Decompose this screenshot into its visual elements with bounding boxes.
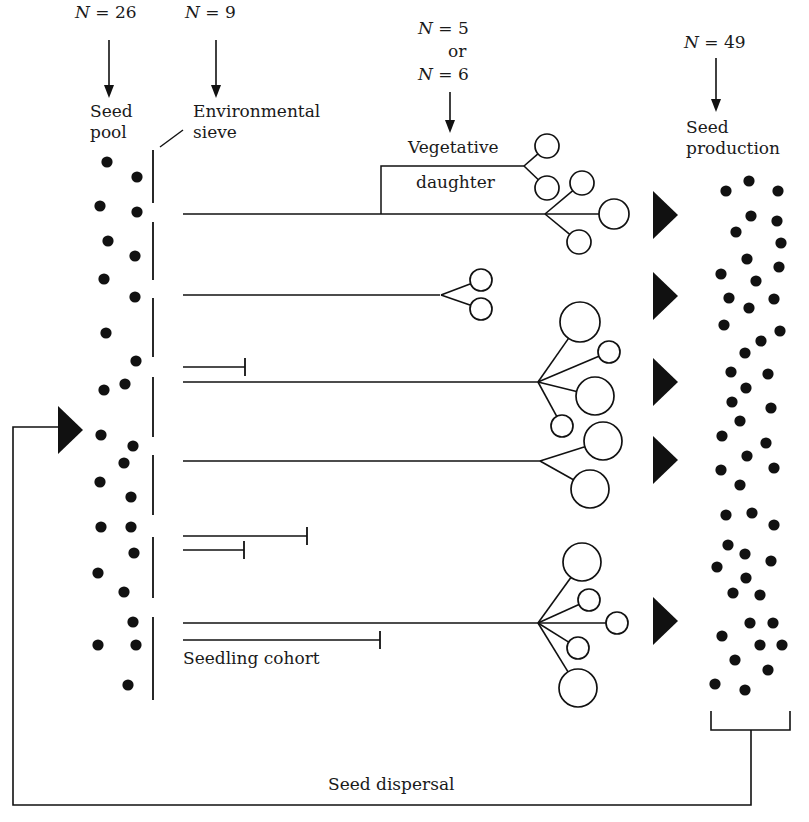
seed-population-diagram: N = 26 N = 9 N = 5 or N = 6 N = 49 Seed … <box>0 0 809 822</box>
seed-dot <box>130 355 141 366</box>
seed-dispersal-label: Seed dispersal <box>328 774 454 795</box>
produced-seed-dot <box>771 215 782 226</box>
reproduction-triangle-icon <box>653 358 678 406</box>
produced-seed-dot <box>775 237 786 248</box>
plant-branches <box>441 134 629 707</box>
vegetative-label: Vegetative <box>408 137 499 158</box>
branch-stem <box>540 447 585 461</box>
produced-seed-dot <box>744 617 755 628</box>
flower-circle-icon <box>551 415 573 437</box>
branch-stem <box>540 461 573 480</box>
produced-seed-dot <box>740 382 751 393</box>
seed-dot <box>102 235 113 246</box>
seed-dot <box>94 476 105 487</box>
produced-seed-dot <box>722 539 733 550</box>
produced-seed-dot <box>739 548 750 559</box>
seed-dispersal-path <box>13 427 751 805</box>
produced-seed-dot <box>741 253 752 264</box>
produced-seed-dot <box>760 437 771 448</box>
produced-seed-dot <box>729 654 740 665</box>
environmental-sieve-label: Environmental sieve <box>193 101 320 143</box>
flower-circle-icon <box>576 377 614 415</box>
seed-dot <box>94 200 105 211</box>
produced-seed-dot <box>772 185 783 196</box>
seedling-lifelines <box>183 166 545 649</box>
down-arrow-icon <box>211 85 221 98</box>
produced-seed-dot <box>750 275 761 286</box>
seed-dot <box>130 639 141 650</box>
seed-dot <box>128 547 139 558</box>
seed-dot <box>100 327 111 338</box>
seed-dot <box>95 521 106 532</box>
seed-pool-dots <box>92 156 142 690</box>
seed-dot <box>127 440 138 451</box>
produced-seed-dot <box>776 639 787 650</box>
produced-seed-dot <box>709 678 720 689</box>
produced-seed-dot <box>740 572 751 583</box>
produced-seed-dot <box>734 415 745 426</box>
seed-dot <box>92 639 103 650</box>
seed-pool-count-label: N = 26 <box>75 2 137 23</box>
branch-stem <box>538 623 569 642</box>
flower-circle-icon <box>535 176 559 200</box>
produced-seed-dot <box>715 268 726 279</box>
produced-seed-dot <box>767 617 778 628</box>
flower-circle-icon <box>563 543 601 581</box>
flower-circle-icon <box>470 269 492 291</box>
produced-seed-dot <box>765 555 776 566</box>
produced-seed-dot <box>762 664 773 675</box>
seed-production-dots <box>709 175 787 695</box>
produced-seed-dot <box>725 366 736 377</box>
sieve-count-label: N = 9 <box>185 2 236 23</box>
seed-dot <box>118 457 129 468</box>
sieve-pointer-line <box>160 130 183 147</box>
seed-dot <box>118 586 129 597</box>
produced-seed-dot <box>739 684 750 695</box>
branch-stem <box>538 382 577 391</box>
produced-seed-dot <box>774 325 785 336</box>
produced-seed-dot <box>765 402 776 413</box>
flower-circle-icon <box>584 422 622 460</box>
produced-seed-dot <box>745 210 756 221</box>
produced-seed-dot <box>762 368 773 379</box>
produced-seed-dot <box>773 261 784 272</box>
produced-seed-dot <box>723 292 734 303</box>
seed-dot <box>95 429 106 440</box>
produced-seed-dot <box>743 175 754 186</box>
seed-dot <box>122 679 133 690</box>
seed-dot <box>125 491 136 502</box>
flower-circle-icon <box>560 302 600 342</box>
flower-circle-icon <box>567 230 591 254</box>
flower-circle-icon <box>570 171 594 195</box>
branch-stem <box>545 214 570 234</box>
branch-stem <box>538 382 557 416</box>
produced-seed-dot <box>720 509 731 520</box>
seed-dot <box>119 378 130 389</box>
reproduction-triangle-icon <box>58 406 83 454</box>
produced-seed-dot <box>754 589 765 600</box>
seed-dot <box>127 616 138 627</box>
produced-seed-dot <box>718 319 729 330</box>
produced-seed-dot <box>755 335 766 346</box>
vegetative-count-alt-label: N = 6 <box>418 64 469 85</box>
seed-dot <box>131 206 142 217</box>
produced-seed-dot <box>743 302 754 313</box>
seed-dot <box>101 156 112 167</box>
produced-seed-dot <box>727 587 738 598</box>
seedling-cohort-label: Seedling cohort <box>183 648 320 669</box>
seed-production-label: Seed production <box>686 117 780 159</box>
down-arrow-icon <box>445 120 455 133</box>
produced-seed-dot <box>746 507 757 518</box>
flower-circle-icon <box>559 669 597 707</box>
produced-seed-dot <box>720 185 731 196</box>
produced-seed-dot <box>716 430 727 441</box>
branch-stem <box>441 295 471 305</box>
produced-seed-dot <box>768 462 779 473</box>
seed-dot <box>129 291 140 302</box>
seed-dot <box>129 250 140 261</box>
produced-seed-dot <box>741 450 752 461</box>
produced-seed-dot <box>711 561 722 572</box>
flower-circle-icon <box>470 298 492 320</box>
reproduction-triangle-icon <box>653 597 678 645</box>
flower-circle-icon <box>571 470 609 508</box>
